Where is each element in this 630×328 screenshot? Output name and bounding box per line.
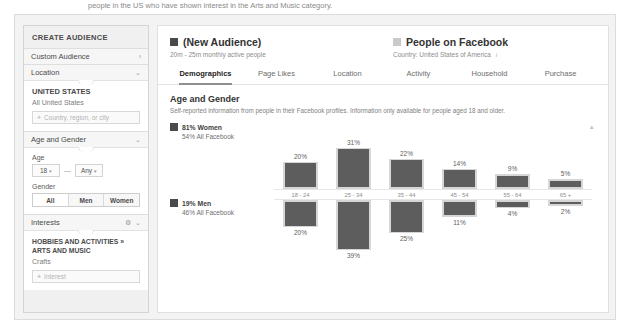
sidebar-item-interests-label: Interests: [31, 218, 60, 227]
axis-tick-label: 55 - 64: [486, 192, 539, 198]
bar-outer: 2%: [548, 200, 583, 206]
tab-activity[interactable]: Activity: [383, 64, 454, 84]
legend-men-share: 19% Men: [182, 200, 211, 207]
legend-men: 19% Men 46% All Facebook: [170, 199, 234, 216]
age-min-value: 18: [40, 167, 47, 174]
comparison-color-swatch-icon: [393, 38, 401, 46]
chart-columns: 20%20%18 - 2431%39%25 - 3422%25%35 - 441…: [274, 121, 592, 281]
sidebar-item-custom-audience[interactable]: Custom Audience ›: [24, 48, 148, 64]
bar-outer: 25%: [389, 200, 424, 233]
bar-value-label: 4%: [495, 210, 530, 217]
legend-men-benchmark: 46% All Facebook: [170, 209, 234, 216]
chart-column[interactable]: 9%4%55 - 64: [486, 121, 539, 281]
bar-outer: 5%: [548, 179, 583, 189]
bar-audience: [285, 202, 316, 226]
gear-icon[interactable]: ⚙: [125, 219, 131, 226]
interests-row-controls: ⚙ ⌄: [125, 219, 141, 226]
location-input-placeholder: Country, region, or city: [44, 114, 109, 121]
age-gender-chart: ▴ 81% Women 54% All Facebook 19% Men 46%…: [170, 121, 596, 283]
bar-group-women: 5%: [539, 121, 592, 189]
bar-value-label: 9%: [495, 165, 530, 172]
interest-input-placeholder: Interest: [44, 273, 66, 280]
bar-outer: 22%: [389, 159, 424, 189]
chart-column[interactable]: 31%39%25 - 34: [327, 121, 380, 281]
age-label: Age: [32, 154, 140, 161]
bar-group-women: 31%: [327, 121, 380, 189]
location-panel: UNITED STATES All United States + Countr…: [24, 80, 148, 131]
age-max-select[interactable]: Any ▾: [75, 164, 103, 177]
age-gender-panel: Age 18 ▾ — Any ▾ Gender All Men Women: [24, 147, 148, 214]
chevron-down-icon: ⌄: [135, 69, 141, 76]
comparison-subtitle-row: Country: United States of America i: [393, 51, 596, 58]
bar-value-label: 2%: [548, 208, 583, 215]
legend-men-row: 19% Men: [170, 199, 234, 207]
sidebar-item-custom-audience-label: Custom Audience: [31, 52, 90, 61]
bar-audience: [444, 202, 475, 215]
bar-value-label: 14%: [442, 160, 477, 167]
audience-subtitle: 20m - 25m monthly active people: [170, 51, 373, 58]
bar-audience: [550, 181, 581, 187]
interest-input[interactable]: + Interest: [32, 270, 140, 283]
audience-summary: (New Audience) 20m - 25m monthly active …: [170, 36, 373, 58]
axis-tick-label: 65 +: [539, 192, 592, 198]
bar-group-men: 4%: [486, 200, 539, 270]
chevron-right-icon: ›: [139, 53, 141, 60]
legend-men-swatch-icon: [170, 199, 178, 207]
gender-option-women[interactable]: Women: [104, 194, 139, 206]
location-country-value: All United States: [32, 99, 140, 106]
bar-group-men: 39%: [327, 200, 380, 270]
chevron-down-icon: ⌄: [135, 219, 141, 226]
comparison-title-row: People on Facebook: [393, 36, 596, 48]
chart-column[interactable]: 22%25%35 - 44: [380, 121, 433, 281]
bar-benchmark: [442, 200, 477, 217]
sidebar-item-age-and-gender[interactable]: Age and Gender ⌄: [24, 131, 148, 147]
comparison-subtitle: Country: United States of America: [393, 51, 491, 58]
tab-page-likes[interactable]: Page Likes: [241, 64, 312, 84]
bar-audience: [391, 202, 422, 232]
bar-outer: 9%: [495, 174, 530, 189]
chart-column[interactable]: 5%2%65 +: [539, 121, 592, 281]
interest-selected-value: Crafts: [32, 258, 140, 265]
sidebar-item-age-and-gender-label: Age and Gender: [31, 135, 86, 144]
tab-location[interactable]: Location: [312, 64, 383, 84]
bar-value-label: 39%: [336, 252, 371, 259]
sidebar-item-interests[interactable]: Interests ⚙ ⌄: [24, 214, 148, 230]
insights-main-panel: (New Audience) 20m - 25m monthly active …: [157, 25, 609, 313]
plus-icon: +: [37, 114, 41, 121]
bar-benchmark: [548, 200, 583, 206]
gender-option-all[interactable]: All: [33, 194, 69, 206]
sidebar-item-location[interactable]: Location ⌄: [24, 64, 148, 80]
tab-demographics[interactable]: Demographics: [170, 64, 241, 84]
axis-tick-label: 25 - 34: [327, 192, 380, 198]
chevron-down-icon: ▾: [49, 168, 52, 174]
bar-audience: [497, 176, 528, 187]
gender-option-men[interactable]: Men: [69, 194, 105, 206]
age-max-value: Any: [81, 167, 92, 174]
bar-benchmark: [389, 200, 424, 233]
bar-audience: [444, 170, 475, 187]
axis-tick-label: 35 - 44: [380, 192, 433, 198]
sidebar-title: CREATE AUDIENCE: [24, 26, 148, 48]
bar-group-men: 20%: [274, 200, 327, 270]
create-audience-sidebar: CREATE AUDIENCE Custom Audience › Locati…: [23, 25, 149, 313]
insights-header: (New Audience) 20m - 25m monthly active …: [158, 26, 608, 64]
chevron-down-icon: ▾: [94, 168, 97, 174]
chevron-down-icon: ⌄: [135, 136, 141, 143]
info-icon[interactable]: i: [496, 52, 497, 58]
tab-purchase[interactable]: Purchase: [525, 64, 596, 84]
age-min-select[interactable]: 18 ▾: [32, 164, 60, 177]
chart-column[interactable]: 14%11%45 - 54: [433, 121, 486, 281]
page-top-note: people in the US who have shown interest…: [0, 0, 630, 14]
bar-audience: [338, 149, 369, 187]
insights-tabs: Demographics Page Likes Location Activit…: [158, 64, 608, 85]
chart-column[interactable]: 20%20%18 - 24: [274, 121, 327, 281]
bar-benchmark: [495, 174, 530, 189]
legend-women: 81% Women 54% All Facebook: [170, 123, 234, 140]
tab-household[interactable]: Household: [454, 64, 525, 84]
legend-women-swatch-icon: [170, 123, 178, 131]
sidebar-item-location-label: Location: [31, 68, 59, 77]
bar-group-women: 14%: [433, 121, 486, 189]
bar-outer: 11%: [442, 200, 477, 217]
audience-color-swatch-icon: [170, 38, 178, 46]
location-input[interactable]: + Country, region, or city: [32, 111, 140, 124]
